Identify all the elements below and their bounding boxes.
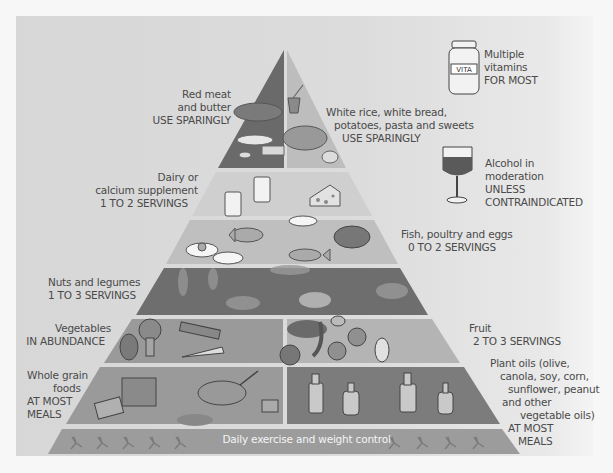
label-dairy: Dairy or calcium supplement 1 TO 2 SERVI… — [95, 171, 198, 210]
label-red-meat: Red meat and butter USE SPARINGLY — [153, 88, 231, 127]
label-vegetables: Vegetables IN ABUNDANCE — [26, 322, 111, 348]
label-whole-grains: Whole grain foods AT MOST MEALS — [27, 369, 88, 421]
label-nuts-legumes: Nuts and legumes 1 TO 3 SERVINGS — [48, 276, 140, 302]
wine-glass-icon — [443, 147, 472, 203]
label-fruit: Fruit 2 TO 3 SERVINGS — [469, 322, 561, 348]
vitamin-bottle-icon: VITA — [449, 41, 479, 94]
label-vitamins: Multiple vitamins FOR MOST — [484, 48, 538, 87]
label-white-starches: White rice, white bread, potatoes, pasta… — [326, 106, 474, 145]
svg-text:VITA: VITA — [456, 66, 472, 74]
tier-dairy — [192, 172, 372, 216]
label-alcohol: Alcohol in moderation UNLESS CONTRAINDIC… — [485, 157, 583, 209]
label-exercise: Daily exercise and weight control — [0, 433, 613, 445]
label-fish-poultry-eggs: Fish, poultry and eggs 0 TO 2 SERVINGS — [401, 228, 513, 254]
